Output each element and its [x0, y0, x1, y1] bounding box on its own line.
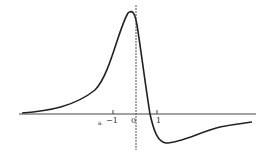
x-label-zero: 0 [131, 117, 136, 125]
curve-series [22, 12, 252, 143]
chart-plot [0, 0, 269, 159]
x-label-a: a [98, 119, 102, 127]
x-label-minus-one: −1 [106, 117, 118, 125]
x-label-one: 1 [156, 117, 161, 125]
